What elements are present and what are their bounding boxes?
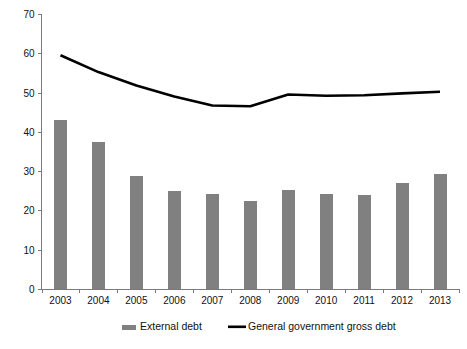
y-axis-ticks bbox=[38, 15, 42, 290]
y-tick-label-50: 50 bbox=[23, 88, 35, 99]
x-tick-label-2008: 2008 bbox=[239, 295, 262, 306]
y-tick-label-60: 60 bbox=[23, 48, 35, 59]
y-tick-label-70: 70 bbox=[23, 9, 35, 20]
bar-2005 bbox=[130, 176, 143, 289]
y-axis-tick-labels: 010203040506070 bbox=[23, 9, 35, 295]
y-tick-label-20: 20 bbox=[23, 205, 35, 216]
y-tick-label-0: 0 bbox=[29, 284, 35, 295]
y-tick-label-10: 10 bbox=[23, 245, 35, 256]
line-series-government-debt bbox=[61, 55, 441, 106]
legend-swatch-government-gross-debt bbox=[228, 326, 246, 329]
x-tick-label-2011: 2011 bbox=[353, 295, 375, 306]
x-tick-label-2006: 2006 bbox=[163, 295, 186, 306]
y-tick-label-30: 30 bbox=[23, 166, 35, 177]
bar-2008 bbox=[244, 201, 257, 289]
bar-2009 bbox=[282, 190, 295, 289]
legend-label-external-debt: External debt bbox=[140, 320, 202, 332]
x-tick-label-2003: 2003 bbox=[49, 295, 72, 306]
x-tick-label-2005: 2005 bbox=[125, 295, 148, 306]
bar-2012 bbox=[396, 183, 409, 289]
bar-2013 bbox=[434, 174, 447, 289]
x-tick-label-2012: 2012 bbox=[391, 295, 414, 306]
bar-2011 bbox=[358, 195, 371, 289]
chart-container: 2003200420052006200720082009201020112012… bbox=[0, 0, 467, 349]
bar-2004 bbox=[92, 142, 105, 289]
bar-2003 bbox=[54, 120, 67, 289]
x-tick-label-2010: 2010 bbox=[315, 295, 338, 306]
x-tick-label-2013: 2013 bbox=[429, 295, 452, 306]
x-axis-tick-labels: 2003200420052006200720082009201020112012… bbox=[49, 295, 451, 306]
y-tick-label-40: 40 bbox=[23, 127, 35, 138]
bar-series-external-debt bbox=[54, 120, 447, 289]
legend-swatch-external-debt bbox=[122, 325, 136, 330]
chart-legend: External debtGeneral government gross de… bbox=[122, 320, 396, 332]
bar-2010 bbox=[320, 194, 333, 289]
x-tick-label-2009: 2009 bbox=[277, 295, 300, 306]
bar-2007 bbox=[206, 194, 219, 289]
x-tick-label-2004: 2004 bbox=[87, 295, 110, 306]
debt-chart: 2003200420052006200720082009201020112012… bbox=[0, 0, 467, 349]
x-tick-label-2007: 2007 bbox=[201, 295, 224, 306]
bar-2006 bbox=[168, 191, 181, 289]
legend-label-government-gross-debt: General government gross debt bbox=[248, 320, 396, 332]
